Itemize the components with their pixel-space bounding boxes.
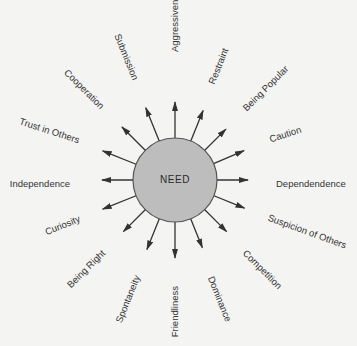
arrow-caution [212, 151, 244, 165]
arrow-suspicion-of-others [212, 195, 244, 208]
arrow-dominance [190, 217, 202, 248]
label-independence: Independence [10, 178, 70, 189]
label-spontaneity: Spontaneity [113, 273, 142, 324]
label-dependendence: Dependendence [276, 178, 346, 189]
label-competition: Competition [241, 247, 285, 291]
arrow-cooperation [122, 127, 147, 152]
diagram-canvas: NEED AggressivenessRestraintBeing Popula… [0, 0, 357, 346]
arrow-competition [203, 208, 226, 231]
arrow-spontaneity [147, 217, 160, 249]
label-trust-in-others: Trust in Others [18, 116, 81, 146]
arrow-trust-in-others [103, 151, 138, 165]
arrow-being-right [123, 208, 146, 231]
label-aggressiveness: Aggressiveness [169, 0, 180, 52]
arrow-curiosity [103, 195, 138, 209]
need-label: NEED [160, 174, 190, 185]
label-being-right: Being Right [65, 247, 108, 290]
label-restraint: Restraint [206, 46, 231, 86]
label-friendliness: Friendliness [169, 286, 180, 337]
label-cooperation: Cooperation [62, 67, 106, 111]
label-curiosity: Curiosity [43, 213, 82, 237]
label-being-popular: Being Popular [240, 63, 290, 113]
label-dominance: Dominance [206, 275, 234, 324]
arrow-restraint [190, 110, 203, 142]
label-submission: Submission [112, 32, 141, 82]
arrow-submission [146, 108, 160, 143]
arrow-being-popular [203, 129, 226, 152]
need-diagram: NEED AggressivenessRestraintBeing Popula… [0, 0, 357, 346]
label-suspicion-of-others: Suspicion of Others [266, 212, 348, 251]
label-caution: Caution [268, 124, 303, 145]
